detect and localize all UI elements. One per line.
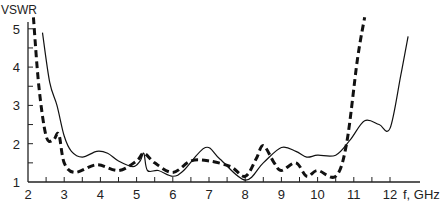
x-tick-label: 3 (61, 187, 68, 202)
x-tick-label: 7 (205, 187, 212, 202)
y-tick-label: 3 (13, 98, 20, 113)
x-tick-label: 10 (310, 187, 324, 202)
y-tick-label: 5 (13, 22, 20, 37)
x-axis-title: f, GHz (403, 187, 440, 202)
y-tick-label: 2 (13, 137, 20, 152)
x-tick-label: 4 (97, 187, 104, 202)
x-tick-label: 2 (24, 187, 31, 202)
y-tick-label: 1 (13, 175, 20, 190)
x-tick-label: 5 (133, 187, 140, 202)
vswr-chart: 2345678910111212345 VSWR f, GHz (0, 0, 445, 206)
x-tick-label: 9 (278, 187, 285, 202)
solid-series-line (42, 33, 408, 180)
x-tick-label: 6 (169, 187, 176, 202)
series-group (33, 17, 408, 180)
x-tick-label: 8 (242, 187, 249, 202)
x-tick-label: 11 (347, 187, 361, 202)
x-tick-label: 12 (383, 187, 397, 202)
y-tick-label: 4 (13, 60, 20, 75)
y-axis-title: VSWR (1, 3, 37, 17)
